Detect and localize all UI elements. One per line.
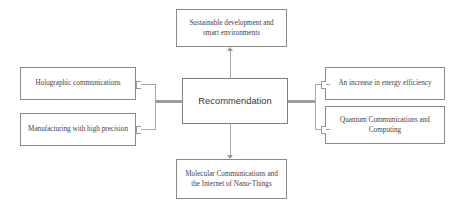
edge-left-branch-top	[141, 84, 156, 85]
arrow-right-icon	[321, 126, 326, 134]
node-label: Sustainable development and smart enviro…	[181, 18, 282, 39]
node-label: An increase in energy efficiency	[338, 78, 431, 88]
edge-center-to-molecular-communications	[230, 124, 231, 155]
arrow-up-icon	[227, 47, 233, 51]
node-quantum-communications[interactable]: Quantum Communications and Computing	[325, 106, 445, 144]
edge-right-riser	[315, 84, 316, 129]
node-label: Quantum Communications and Computing	[330, 115, 440, 136]
node-recommendation-center[interactable]: Recommendation	[182, 78, 288, 124]
arrow-down-icon	[227, 155, 233, 159]
arrow-left-icon	[136, 126, 141, 134]
node-molecular-communications[interactable]: Molecular Communications and the Interne…	[176, 159, 287, 199]
center-node-label: Recommendation	[198, 94, 271, 108]
edge-left-riser	[155, 84, 156, 129]
node-holographic-communications[interactable]: Holographic communications	[20, 67, 136, 100]
diagram-canvas: Sustainable development and smart enviro…	[0, 0, 464, 206]
edge-left-branch-bottom	[141, 129, 156, 130]
node-sustainable-development[interactable]: Sustainable development and smart enviro…	[176, 9, 287, 47]
edge-center-left-trunk	[155, 100, 183, 103]
node-manufacturing-high-precision[interactable]: Manufacturing with high precision	[20, 113, 136, 146]
edge-center-to-sustainable-development	[230, 51, 231, 79]
node-energy-efficiency[interactable]: An increase in energy efficiency	[325, 67, 445, 100]
node-label: Manufacturing with high precision	[28, 124, 128, 134]
edge-center-right-trunk	[288, 100, 316, 103]
arrow-left-icon	[136, 81, 141, 89]
arrow-right-icon	[321, 81, 326, 89]
node-label: Molecular Communications and the Interne…	[181, 169, 282, 190]
node-label: Holographic communications	[35, 78, 120, 88]
